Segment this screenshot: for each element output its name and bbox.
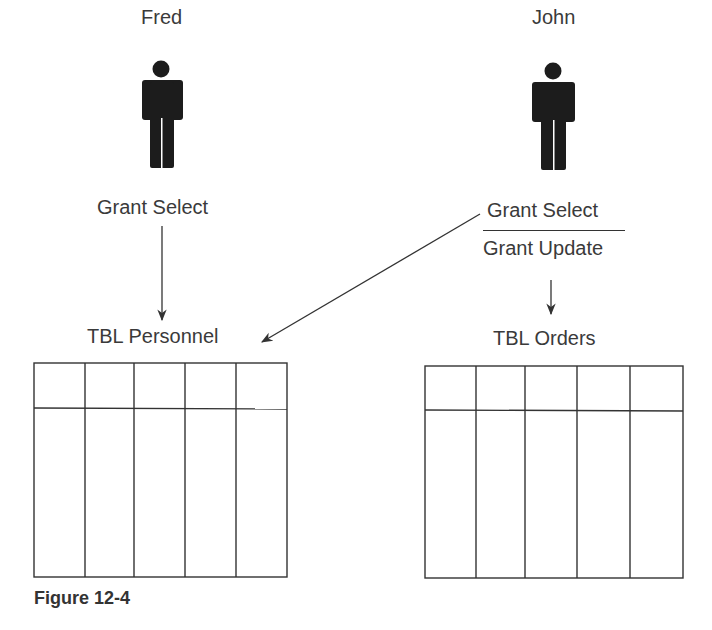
diagram-canvas (0, 0, 712, 630)
table-name-personnel: TBL Personnel (87, 325, 219, 348)
grant-divider (483, 230, 625, 231)
table-personnel-grid (34, 363, 287, 577)
grant-label-john-select: Grant Select (487, 199, 598, 222)
person-icon-fred (142, 61, 183, 169)
table-name-orders: TBL Orders (493, 327, 596, 350)
table-orders-grid (425, 366, 683, 578)
grant-label-fred-select: Grant Select (97, 196, 208, 219)
figure-caption: Figure 12-4 (34, 588, 130, 609)
person-icon-john (532, 63, 575, 171)
grant-label-john-update: Grant Update (483, 237, 603, 260)
arrow-john-to-personnel (262, 214, 480, 342)
